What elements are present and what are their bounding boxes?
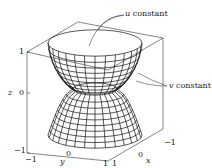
x-tick-0: 0 — [138, 151, 143, 159]
z-axis-label: z — [8, 89, 12, 97]
z-tick-1: 1 — [19, 48, 24, 56]
annotation-arrows — [89, 15, 167, 86]
z-tick-0: 0 — [19, 89, 24, 97]
x-axis-label: x — [146, 157, 151, 165]
v-text: constant — [174, 81, 211, 90]
u-constant-label: u constant — [125, 10, 168, 18]
z-tick-neg1: −1 — [14, 147, 26, 155]
y-tick-1: 1 — [103, 160, 108, 168]
y-tick-0: 0 — [66, 150, 71, 158]
x-tick-neg1: −1 — [164, 139, 176, 147]
v-constant-label: v constant — [169, 82, 211, 90]
u-text: constant — [130, 9, 167, 18]
x-tick-1: 1 — [112, 160, 117, 168]
y-axis-label: y — [60, 158, 65, 166]
y-tick-neg1: −1 — [25, 156, 37, 164]
upper-bowl — [48, 30, 142, 94]
